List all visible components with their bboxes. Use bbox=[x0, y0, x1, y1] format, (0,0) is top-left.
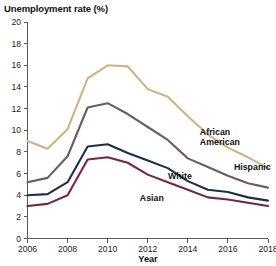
x-tick-label: 2016 bbox=[218, 244, 237, 254]
x-tick-label: 2014 bbox=[178, 244, 197, 254]
y-tick-label: 20 bbox=[11, 17, 21, 27]
y-tick-group: 02468101214161820 bbox=[11, 17, 27, 244]
x-axis-group: 2006200820102012201420162018 bbox=[18, 239, 276, 255]
x-tick-label: 2010 bbox=[98, 244, 117, 254]
y-axis-group: 02468101214161820 bbox=[11, 17, 27, 244]
series-label-hispanic: Hispanic bbox=[234, 162, 271, 172]
x-axis-title: Year bbox=[138, 254, 158, 264]
y-tick-label: 14 bbox=[11, 82, 21, 92]
x-tick-label: 2018 bbox=[258, 244, 276, 254]
y-tick-label: 12 bbox=[11, 104, 21, 114]
chart-plot-area: 02468101214161820 2006200820102012201420… bbox=[0, 0, 276, 266]
series-label-white: White bbox=[168, 171, 192, 181]
x-tick-group: 2006200820102012201420162018 bbox=[18, 239, 276, 255]
series-line-african-american bbox=[28, 65, 269, 168]
y-tick-label: 0 bbox=[16, 234, 21, 244]
y-tick-label: 16 bbox=[11, 60, 21, 70]
y-tick-label: 8 bbox=[16, 147, 21, 157]
x-tick-label: 2012 bbox=[138, 244, 157, 254]
series-label-asian: Asian bbox=[140, 193, 164, 203]
x-tick-label: 2008 bbox=[58, 244, 77, 254]
y-tick-label: 18 bbox=[11, 39, 21, 49]
y-tick-label: 6 bbox=[16, 169, 21, 179]
series-line-group bbox=[28, 65, 269, 206]
series-label-african-american: AfricanAmerican bbox=[200, 127, 240, 148]
y-tick-label: 10 bbox=[11, 125, 21, 135]
x-tick-label: 2006 bbox=[18, 244, 37, 254]
y-tick-label: 2 bbox=[16, 212, 21, 222]
unemployment-rate-chart: Unemployment rate (%) 02468101214161820 … bbox=[0, 0, 276, 266]
y-tick-label: 4 bbox=[16, 190, 21, 200]
